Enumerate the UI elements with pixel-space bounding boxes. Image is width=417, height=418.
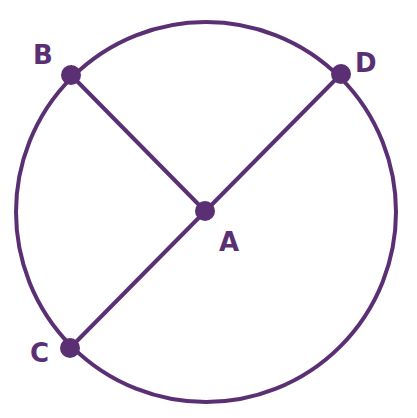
point-a	[195, 201, 215, 221]
label-b: B	[33, 40, 53, 70]
label-a: A	[219, 227, 239, 257]
point-d	[331, 64, 351, 84]
circle-diagram: B D A C	[0, 0, 417, 418]
point-b	[61, 65, 81, 85]
label-d: D	[355, 48, 377, 78]
label-c: C	[30, 338, 49, 368]
radius-segment-ba	[71, 75, 205, 211]
point-c	[60, 338, 80, 358]
